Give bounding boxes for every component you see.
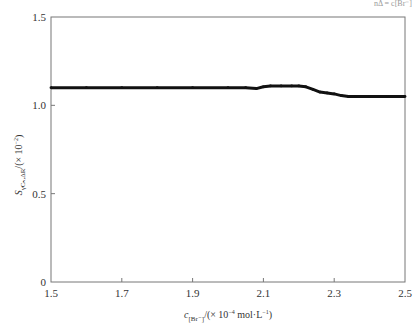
x-axis-label: c[Br⁻]/(× 10−4 mol·L−1) (184, 309, 272, 323)
data-point (255, 87, 258, 90)
x-axis: 1.51.71.92.12.32.5 (44, 278, 412, 299)
x-tick-label: 2.1 (257, 287, 271, 299)
y-axis: 00.51.01.5 (32, 11, 55, 288)
data-point (280, 85, 283, 88)
y-tick-label: 0.5 (32, 188, 46, 200)
plot-frame (51, 17, 405, 282)
x-tick-label: 2.5 (398, 287, 412, 299)
y-tick-label: 1.0 (32, 99, 46, 111)
data-point (354, 95, 357, 98)
data-point (120, 86, 123, 89)
data-point (227, 86, 230, 89)
data-point (156, 86, 159, 89)
x-tick-label: 1.5 (44, 287, 58, 299)
data-point (290, 85, 293, 88)
data-point (85, 86, 88, 89)
x-tick-label: 2.3 (327, 287, 341, 299)
y-tick-label: 0 (41, 276, 47, 288)
data-point (326, 92, 329, 95)
data-point (269, 85, 272, 88)
data-point (319, 91, 322, 94)
data-point (333, 92, 336, 95)
x-tick-label: 1.9 (186, 287, 200, 299)
data-point (386, 95, 389, 98)
data-point (297, 85, 300, 88)
chart: nΔ = c[Br⁻] 1.51.71.92.12.32.5 00.51.01.… (0, 0, 419, 325)
y-axis-label: SγCₙ,ΔR/(× 10−2) (13, 135, 27, 196)
data-point (340, 94, 343, 97)
data-point (50, 86, 53, 89)
y-tick-label: 1.5 (32, 11, 46, 23)
series-group (50, 85, 407, 98)
data-point (368, 95, 371, 98)
data-point (312, 88, 315, 91)
data-point (244, 86, 247, 89)
data-point (191, 86, 194, 89)
x-tick-label: 1.7 (115, 287, 129, 299)
data-point (347, 95, 350, 98)
data-point (262, 85, 265, 88)
data-point (304, 85, 307, 88)
data-point (404, 95, 407, 98)
corner-fragment-text: nΔ = c[Br⁻] (374, 0, 412, 8)
